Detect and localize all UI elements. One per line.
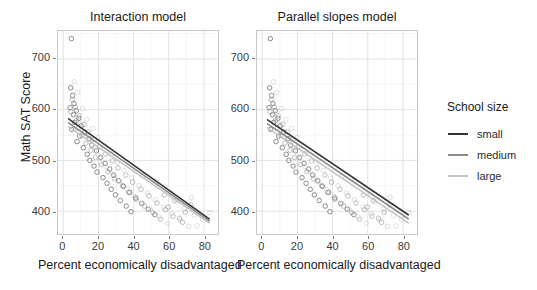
- scatter-point: [328, 209, 333, 214]
- scatter-point: [308, 187, 313, 192]
- x-tick-mark: [98, 236, 99, 239]
- legend-line-swatch-medium: [447, 148, 469, 162]
- scatter-point: [291, 164, 296, 169]
- scatter-point: [284, 117, 289, 122]
- legend-label: large: [477, 170, 501, 182]
- scatter-point: [268, 36, 273, 41]
- scatter-point: [124, 173, 129, 178]
- y-tick-mark: [53, 161, 56, 162]
- scatter-point: [394, 224, 399, 229]
- scatter-point: [166, 205, 171, 210]
- legend-label: small: [477, 128, 503, 140]
- scatter-point: [274, 90, 279, 95]
- scatter-point: [292, 155, 297, 160]
- x-tick-mark: [297, 236, 298, 239]
- scatter-point: [388, 195, 393, 200]
- y-tick-mark: [252, 161, 255, 162]
- legend-item-small[interactable]: small: [447, 123, 535, 144]
- scatter-point: [284, 152, 289, 157]
- legend-line-swatch-small: [447, 127, 469, 141]
- scatter-point: [385, 224, 390, 229]
- x-tick-label: 40: [318, 240, 348, 252]
- regression-line-large: [268, 128, 409, 223]
- regression-line-small: [69, 119, 210, 219]
- scatter-point: [104, 164, 109, 169]
- scatter-point: [189, 195, 194, 200]
- scatter-point: [75, 139, 80, 144]
- scatter-point: [280, 145, 285, 150]
- scatter-point: [321, 168, 326, 173]
- scatter-point: [323, 204, 328, 209]
- scatter-point: [105, 181, 110, 186]
- scatter-point: [109, 187, 114, 192]
- scatter-point: [75, 90, 80, 95]
- scatter-point: [315, 166, 320, 171]
- x-tick-label: 0: [246, 240, 276, 252]
- y-axis-label: Math SAT Score: [19, 37, 33, 197]
- plot-panel-parallel: [256, 30, 418, 235]
- y-tick-mark: [53, 212, 56, 213]
- x-tick-mark: [134, 236, 135, 239]
- y-tick-mark: [252, 212, 255, 213]
- scatter-point: [90, 126, 95, 131]
- x-tick-label: 60: [154, 240, 184, 252]
- scatter-point: [101, 175, 106, 180]
- panel-title-parallel: Parallel slopes model: [256, 10, 418, 24]
- scatter-point: [116, 166, 121, 171]
- x-axis-label-right: Percent economically disadvantaged: [237, 258, 437, 272]
- x-tick-label: 60: [353, 240, 383, 252]
- y-tick-label: 400: [24, 205, 50, 217]
- chart-figure: Interaction model Parallel slopes model …: [0, 0, 537, 290]
- y-tick-label: 600: [223, 102, 249, 114]
- scatter-point: [124, 204, 129, 209]
- y-tick-mark: [53, 109, 56, 110]
- regression-line-small: [268, 120, 409, 215]
- scatter-point: [317, 198, 322, 203]
- legend: School size smallmediumlarge: [447, 100, 535, 186]
- scatter-point: [304, 181, 309, 186]
- legend-item-large[interactable]: large: [447, 165, 535, 186]
- legend-item-medium[interactable]: medium: [447, 144, 535, 165]
- regression-line-medium: [268, 124, 409, 219]
- scatter-point: [113, 193, 118, 198]
- x-tick-mark: [261, 236, 262, 239]
- scatter-point: [122, 168, 127, 173]
- scatter-point: [129, 209, 134, 214]
- y-tick-label: 500: [223, 154, 249, 166]
- scatter-point: [85, 117, 90, 122]
- x-tick-label: 80: [389, 240, 419, 252]
- scatter-point: [72, 79, 77, 84]
- panel-title-interaction: Interaction model: [57, 10, 219, 24]
- x-tick-mark: [368, 236, 369, 239]
- scatter-point: [274, 139, 279, 144]
- x-tick-label: 20: [83, 240, 113, 252]
- scatter-point: [117, 179, 122, 184]
- scatter-point: [365, 205, 370, 210]
- scatter-point: [289, 126, 294, 131]
- legend-line-swatch-large: [447, 169, 469, 183]
- scatter-point: [110, 159, 115, 164]
- y-tick-label: 700: [223, 51, 249, 63]
- scatter-point: [316, 179, 321, 184]
- scatter-point: [312, 193, 317, 198]
- legend-entries: smallmediumlarge: [447, 123, 535, 186]
- scatter-point: [186, 224, 191, 229]
- x-tick-mark: [169, 236, 170, 239]
- x-tick-mark: [205, 236, 206, 239]
- plot-panel-interaction: [57, 30, 219, 235]
- x-tick-label: 0: [47, 240, 77, 252]
- y-tick-mark: [53, 58, 56, 59]
- legend-label: medium: [477, 149, 516, 161]
- scatter-point: [118, 198, 123, 203]
- scatter-point: [85, 152, 90, 157]
- scatter-point: [69, 36, 74, 41]
- regression-line-medium: [69, 123, 210, 221]
- scatter-point: [300, 175, 305, 180]
- y-tick-mark: [252, 58, 255, 59]
- x-tick-label: 40: [119, 240, 149, 252]
- scatter-point: [271, 79, 276, 84]
- scatter-point: [68, 86, 73, 91]
- legend-title: School size: [447, 100, 535, 114]
- x-tick-mark: [404, 236, 405, 239]
- x-axis-label-left: Percent economically disadvantaged: [38, 258, 238, 272]
